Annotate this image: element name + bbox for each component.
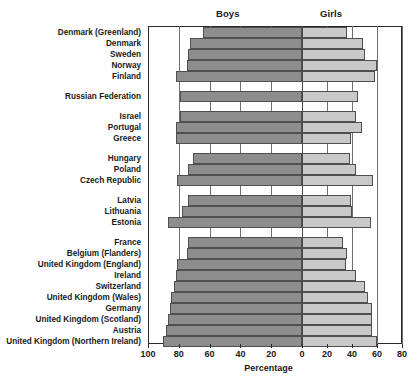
bar-row <box>148 270 402 281</box>
bar-girls <box>302 111 356 122</box>
axis-boys-100-tick <box>148 344 149 348</box>
bar-girls <box>302 325 372 336</box>
axis-girls-20-tick <box>327 344 328 348</box>
bar-boys <box>180 111 302 122</box>
bar-girls <box>302 336 377 347</box>
bar-girls <box>302 206 352 217</box>
bar-row <box>148 49 402 60</box>
axis-boys-20-label: 20 <box>266 349 276 359</box>
bar-girls <box>302 153 350 164</box>
axis-boys-80-label: 80 <box>174 349 184 359</box>
bar-boys <box>177 175 302 186</box>
bar-boys <box>180 91 302 102</box>
category-label: Denmark <box>106 39 141 48</box>
bar-row <box>148 292 402 303</box>
bar-row <box>148 164 402 175</box>
bar-boys <box>170 303 302 314</box>
bar-row <box>148 259 402 270</box>
category-label: France <box>114 238 141 247</box>
bar-girls <box>302 281 365 292</box>
bar-girls <box>302 175 373 186</box>
bar-boys <box>188 195 302 206</box>
axis-girls-20-label: 20 <box>322 349 332 359</box>
bar-boys <box>166 325 302 336</box>
category-label: Israel <box>120 112 141 121</box>
category-label: United Kingdom (Northern Ireland) <box>6 337 141 346</box>
x-axis-title: Percentage <box>0 363 419 373</box>
category-label: Lithuania <box>105 207 141 216</box>
bar-row <box>148 153 402 164</box>
bar-girls <box>302 49 365 60</box>
category-label: Latvia <box>117 196 141 205</box>
bar-row <box>148 281 402 292</box>
bar-girls <box>302 164 356 175</box>
bars-layer <box>148 26 402 344</box>
bar-boys <box>190 38 302 49</box>
bar-boys <box>188 237 302 248</box>
bar-boys <box>168 314 302 325</box>
bar-girls <box>302 133 351 144</box>
category-label: Denmark (Greenland) <box>58 28 141 37</box>
bar-boys <box>163 336 302 347</box>
bar-boys <box>182 206 302 217</box>
category-label: Austria <box>113 326 141 335</box>
axis-boys-60-label: 60 <box>205 349 215 359</box>
category-label: Switzerland <box>96 282 142 291</box>
category-label: Poland <box>114 165 141 174</box>
category-label: United Kingdom (Wales) <box>47 293 141 302</box>
bar-girls <box>302 248 347 259</box>
bar-girls <box>302 270 356 281</box>
axis-boys-60-tick <box>210 344 211 348</box>
axis-girls-40-tick <box>352 344 353 348</box>
bar-girls <box>302 27 347 38</box>
bar-girls <box>302 303 372 314</box>
category-label: United Kingdom (Scotland) <box>35 315 141 324</box>
axis-girls-40-label: 40 <box>347 349 357 359</box>
axis-boys-100-label: 100 <box>140 349 155 359</box>
bar-girls <box>302 259 346 270</box>
bar-row <box>148 38 402 49</box>
bar-girls <box>302 217 371 228</box>
bar-boys <box>176 71 302 82</box>
bar-girls <box>302 237 343 248</box>
axis-girls-80-tick <box>402 344 403 348</box>
bar-row <box>148 248 402 259</box>
bar-row <box>148 303 402 314</box>
bar-row <box>148 122 402 133</box>
category-label: Germany <box>106 304 142 313</box>
bar-row <box>148 336 402 347</box>
bar-row <box>148 314 402 325</box>
bar-boys <box>174 281 302 292</box>
bar-girls <box>302 91 358 102</box>
bar-row <box>148 206 402 217</box>
category-label: Hungary <box>108 154 141 163</box>
bar-boys <box>168 217 302 228</box>
category-label: Czech Republic <box>80 176 141 185</box>
bar-boys <box>188 49 302 60</box>
category-label: Estonia <box>111 218 141 227</box>
category-labels: Denmark (Greenland)DenmarkSwedenNorwayFi… <box>0 26 144 344</box>
bar-row <box>148 237 402 248</box>
bar-row <box>148 195 402 206</box>
category-label: Greece <box>113 134 141 143</box>
bar-row <box>148 133 402 144</box>
bar-girls <box>302 71 375 82</box>
girls-column-header: Girls <box>320 8 342 19</box>
category-label: Belgium (Flanders) <box>67 249 141 258</box>
bar-boys <box>187 60 303 71</box>
axis-boys-40-label: 40 <box>235 349 245 359</box>
bar-boys <box>203 27 302 38</box>
category-label: Ireland <box>114 271 141 280</box>
axis-girls-0-label: 0 <box>299 349 304 359</box>
bar-girls <box>302 292 368 303</box>
x-axis-title-text: Percentage <box>244 363 293 373</box>
bar-row <box>148 91 402 102</box>
bar-row <box>148 217 402 228</box>
axis-boys-80-tick <box>179 344 180 348</box>
bar-girls <box>302 38 363 49</box>
axis-girls-80-label: 80 <box>397 349 407 359</box>
bar-row <box>148 27 402 38</box>
bar-row <box>148 325 402 336</box>
bar-girls <box>302 60 377 71</box>
category-label: Portugal <box>108 123 141 132</box>
